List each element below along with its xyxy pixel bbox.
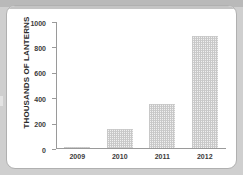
bar-2010 — [107, 129, 133, 148]
y-axis-tick-label: 600 — [34, 70, 46, 77]
figure-card: THOUSANDS OF LANTERNS 02004006008001000 … — [6, 5, 237, 169]
y-axis-label: THOUSANDS OF LANTERNS — [22, 9, 31, 137]
bar-2009 — [64, 147, 90, 148]
page-edge-sliver — [0, 96, 3, 106]
x-axis-tick-label-2009: 2009 — [56, 153, 99, 160]
y-axis-tick-label: 800 — [34, 44, 46, 51]
x-axis-tick-label-2010: 2010 — [99, 153, 142, 160]
x-axis-line — [56, 148, 226, 149]
x-axis-tick-labels: 2009201020112012 — [56, 153, 226, 160]
x-axis-tick-label-2012: 2012 — [184, 153, 227, 160]
y-axis-tick-label: 1000 — [30, 19, 46, 26]
bar-slot — [56, 22, 99, 148]
bar-slot — [184, 22, 227, 148]
page-background: THOUSANDS OF LANTERNS 02004006008001000 … — [0, 0, 243, 175]
y-axis-tick: 0 — [52, 149, 56, 150]
x-axis-tick-label-2011: 2011 — [141, 153, 184, 160]
bar-series — [56, 22, 226, 148]
plot-area: 02004006008001000 — [56, 22, 226, 149]
bar-2012 — [192, 36, 218, 148]
y-axis-tick-label: 0 — [42, 146, 46, 153]
bar-chart: THOUSANDS OF LANTERNS 02004006008001000 … — [7, 6, 237, 169]
bar-slot — [141, 22, 184, 148]
bar-2011 — [149, 104, 175, 148]
y-axis-tick-label: 400 — [34, 95, 46, 102]
bar-slot — [99, 22, 142, 148]
y-axis-tick-label: 200 — [34, 121, 46, 128]
